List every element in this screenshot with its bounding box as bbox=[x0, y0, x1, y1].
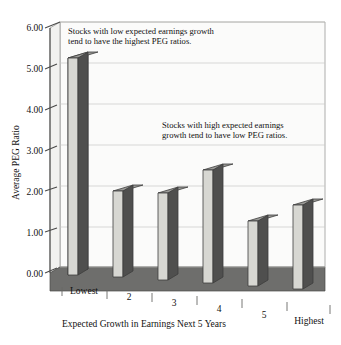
bar-lowest-right bbox=[78, 52, 88, 275]
x-tick-label-4: 4 bbox=[217, 304, 222, 314]
annotation-high-growth-line2: growth tend to have low PEG ratios. bbox=[162, 130, 287, 140]
x-tick-label-highest: Highest bbox=[294, 316, 324, 326]
chart-canvas: 6.00 5.00 4.00 3.00 2.00 1.00 0.00 Avera… bbox=[0, 0, 341, 345]
bar-2-right bbox=[123, 185, 133, 277]
x-axis-title: Expected Growth in Earnings Next 5 Years bbox=[62, 319, 226, 329]
x-tick-label-3: 3 bbox=[172, 298, 177, 308]
bar-highest-face bbox=[293, 205, 303, 289]
peg-ratio-bar-chart: 6.00 5.00 4.00 3.00 2.00 1.00 0.00 Avera… bbox=[0, 0, 341, 345]
back-wall bbox=[60, 22, 325, 267]
bar-2-face bbox=[113, 191, 123, 277]
bar-highest-right bbox=[303, 199, 313, 289]
bar-3-right bbox=[168, 187, 178, 280]
bar-3-face bbox=[158, 193, 168, 280]
y-tick-label-3: 3.00 bbox=[26, 146, 43, 156]
left-side-wall bbox=[50, 22, 60, 273]
y-tick-label-6: 6.00 bbox=[26, 23, 43, 33]
y-tick-label-2: 2.00 bbox=[26, 187, 43, 197]
y-tick-label-5: 5.00 bbox=[26, 64, 43, 74]
annotation-high-growth-line1: Stocks with high expected earnings bbox=[162, 120, 284, 130]
x-tick-label-5: 5 bbox=[262, 310, 267, 320]
plot-walls bbox=[50, 22, 325, 291]
y-tick-label-0: 0.00 bbox=[26, 269, 43, 279]
x-tick-label-lowest: Lowest bbox=[70, 286, 98, 296]
annotation-low-growth-line2: tend to have the highest PEG ratios. bbox=[68, 36, 191, 46]
y-tick-label-4: 4.00 bbox=[26, 105, 43, 115]
bar-5-face bbox=[248, 221, 258, 286]
bar-4-right bbox=[213, 164, 223, 283]
annotation-high-growth: Stocks with high expected earnings growt… bbox=[162, 120, 287, 140]
bar-5-right bbox=[258, 215, 268, 286]
annotation-low-growth-line1: Stocks with low expected earnings growth bbox=[68, 26, 215, 36]
y-axis-title: Average PEG Ratio bbox=[11, 125, 21, 200]
y-tick-label-1: 1.00 bbox=[26, 228, 43, 238]
x-tick-label-2: 2 bbox=[127, 292, 132, 302]
bar-lowest-face bbox=[68, 58, 78, 275]
bar-4-face bbox=[203, 170, 213, 283]
